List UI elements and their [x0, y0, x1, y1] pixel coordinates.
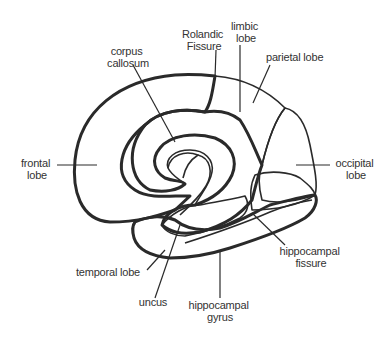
leader-rolandic	[215, 50, 216, 78]
leader-parietal	[253, 65, 270, 103]
label-corpus: corpus callosum	[107, 45, 149, 69]
label-temporal: temporal lobe	[76, 266, 140, 278]
label-rolandic: Rolandic Fissure	[182, 28, 226, 52]
label-frontal: frontal lobe	[21, 157, 53, 181]
occipital-lobe-region	[259, 108, 316, 202]
corpus-callosum-region	[155, 135, 235, 205]
label-occipital: occipital lobe	[336, 157, 377, 181]
parietal-lobe-region	[205, 76, 285, 165]
label-parietal: parietal lobe	[266, 51, 323, 63]
label-limbic: limbic lobe	[231, 20, 261, 44]
limbic-lobe-region	[132, 110, 262, 233]
label-hippo-gyrus: hippocampal gyrus	[188, 299, 251, 323]
brain-diagram: Rolandic Fissure limbic lobe parietal lo…	[0, 0, 392, 339]
hippocampal-fissure-line	[185, 200, 312, 243]
label-hippo-fissure: hippocampal fissure	[279, 245, 342, 269]
leader-uncus	[155, 225, 180, 298]
label-uncus: uncus	[139, 296, 168, 308]
frontal-lobe-region	[74, 75, 215, 222]
